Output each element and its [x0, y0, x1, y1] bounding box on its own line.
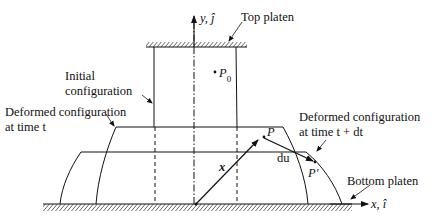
point-p-prime-label: P′ [307, 166, 319, 180]
top-platen [146, 42, 247, 47]
point-p-label: P [266, 125, 275, 139]
point-p-marker [263, 136, 266, 139]
deformed-tdt-label-line2: at time t + dt [299, 125, 364, 139]
bottom-platen [43, 204, 352, 211]
point-p0-label: P0 [218, 66, 232, 84]
bottom-platen-label: Bottom platen [347, 174, 419, 188]
deformed-t-label-line1: Deformed configuration [5, 105, 127, 119]
initial-config-label-line2: configuration [65, 84, 133, 98]
initial-config-leader [142, 95, 152, 103]
deformation-diagram: y, ĵ x, î Top platen Bottom platen Initi… [0, 0, 437, 222]
deformed-configuration-t-dt [60, 152, 342, 204]
point-p0-marker [214, 71, 217, 74]
x-axis-label: x, î [370, 197, 388, 211]
deformed-tdt-leader [317, 140, 326, 151]
displacement-vector-label: du [277, 151, 290, 165]
top-platen-leader [229, 22, 242, 41]
deformed-configuration-t [96, 127, 308, 204]
initial-config-label-line1: Initial [65, 69, 95, 83]
deformed-t-label-line2: at time t [5, 120, 46, 134]
deformed-tdt-label-line1: Deformed configuration [299, 110, 421, 124]
position-vector-label: x [218, 160, 225, 174]
top-platen-label: Top platen [241, 10, 295, 24]
y-axis-label: y, ĵ [198, 11, 216, 25]
point-p-prime-marker [314, 161, 317, 164]
position-vector-x [195, 140, 259, 206]
